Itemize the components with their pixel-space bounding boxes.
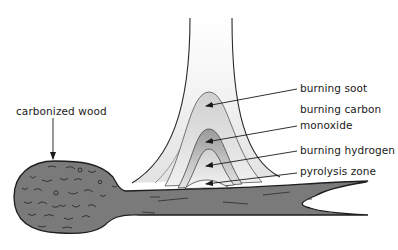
label-burning-carbon: burning carbon	[300, 103, 381, 115]
label-burning-hydrogen: burning hydrogen	[300, 144, 395, 156]
label-carbonized-wood: carbonized wood	[16, 105, 107, 117]
label-monoxide: monoxide	[300, 119, 352, 131]
label-pyrolysis-zone: pyrolysis zone	[300, 165, 376, 177]
label-burning-soot: burning soot	[300, 82, 367, 94]
combustion-diagram: carbonized wood burning soot burning car…	[0, 0, 398, 250]
